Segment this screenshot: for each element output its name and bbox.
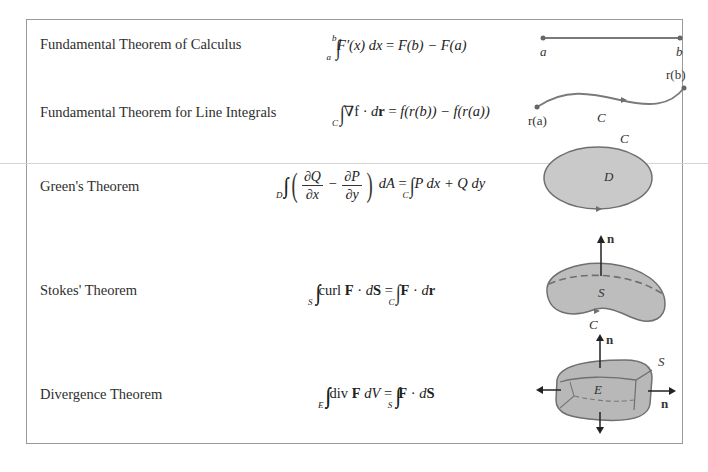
label-a: a [540,44,547,60]
formula-ftc: ∫baF′(x) dx = F(b) − F(a) [336,33,466,61]
equals-sign: = [385,282,393,298]
r-vector: r [429,282,435,298]
integrand: F′(x) dx [337,37,382,53]
dot: · [411,385,416,401]
numerator: ∂Q [302,168,323,186]
s-vector: S [373,282,381,298]
surface-diagram [535,234,675,340]
formula-divergence: ∫∫∫Ediv F dV = ∫∫SF · dS [326,383,435,409]
label-normal-n-right: n [661,396,668,412]
lower-limit: a [327,52,332,62]
label-surface-s: S [598,285,605,301]
surface-limit: S [388,400,393,410]
label-normal-n-top: n [606,332,613,348]
d: d [419,385,426,401]
label-normal-n: n [607,231,614,247]
dot: · [357,282,362,298]
dA: dA [379,175,395,191]
row-label-stokes: Stokes' Theorem [40,282,137,299]
figure-surface: n S C [535,234,675,340]
row-label-line-integrals: Fundamental Theorem for Line Integrals [40,104,277,121]
label-r-a: r(a) [528,113,547,129]
row-label-greens: Green's Theorem [40,178,139,195]
dV: dV [364,385,380,401]
row-label-ftc: Fundamental Theorem of Calculus [40,36,241,53]
gradient: ∇f [344,103,359,119]
f-vector: F [398,385,407,401]
rhs: f(r(b)) − f(r(a)) [400,103,490,119]
s-vector: S [427,385,435,401]
solid-limit: E [318,400,324,410]
label-solid-e: E [594,382,602,398]
rhs: P dx + Q dy [414,175,485,191]
div-operator: div [330,385,349,401]
dot: · [363,103,368,119]
label-r-b: r(b) [666,67,686,83]
d: d [421,282,428,298]
dot: · [413,282,418,298]
label-surface-s: S [658,354,665,370]
figure-solid: n n S E [530,334,680,440]
denominator: ∂x [304,186,321,203]
figure-interval: a b [530,28,690,64]
formula-stokes: ∫∫Scurl F · dS = ∫CF · dr [316,280,435,306]
numerator: ∂P [342,168,361,186]
label-b: b [676,44,683,60]
interval-diagram [530,28,690,64]
figure-region: C D [530,130,680,220]
label-boundary-c: C [589,317,598,333]
equals-sign: = [388,103,396,119]
lower-limit: C [388,297,394,307]
solid-diagram [530,334,680,440]
row-label-divergence: Divergence Theorem [40,386,162,403]
equals-sign: = [399,175,407,191]
minus: − [329,175,337,191]
left-paren: ( [291,166,297,204]
label-boundary-c: C [620,131,629,147]
denominator: ∂y [344,186,361,203]
formula-line-integrals: ∫C∇f · dr = f(r(b)) − f(r(a)) [340,101,490,127]
f-vector: F [345,282,354,298]
fraction-dq-dx: ∂Q∂x [302,168,323,203]
surface-limit: S [308,297,313,307]
figure-curve: r(a) r(b) C [520,68,700,138]
label-curve-c: C [597,110,606,126]
right-paren: ) [366,166,372,204]
region-limit: D [276,190,283,200]
d: d [366,282,373,298]
r-vector: r [378,103,384,119]
rhs: F(b) − F(a) [398,37,467,53]
curl-operator: curl [319,282,342,298]
f-vector: F [401,282,410,298]
formula-greens: ∫∫D(∂Q∂x − ∂P∂y) dA = ∫CP dx + Q dy [284,166,485,204]
equals-sign: = [386,37,394,53]
equals-sign: = [384,385,392,401]
lower-limit: C [402,190,408,200]
lower-limit: C [332,118,338,128]
label-region-d: D [604,169,613,185]
fraction-dp-dy: ∂P∂y [342,168,361,203]
f-vector: F [352,385,361,401]
